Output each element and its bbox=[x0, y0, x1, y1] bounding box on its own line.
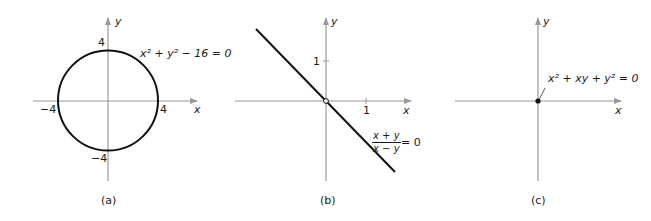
panel-b-graph bbox=[235, 18, 411, 181]
panel-a-caption: (a) bbox=[101, 195, 116, 206]
panel-b-x-label: x bbox=[403, 105, 410, 116]
panel-b-equation-numerator: x + y bbox=[372, 131, 401, 143]
panel-a-equation: x² + y² − 16 = 0 bbox=[140, 48, 231, 59]
panel-a-tick-y-pos: 4 bbox=[98, 37, 105, 48]
panel-c-caption: (c) bbox=[531, 195, 546, 206]
panel-b-tick-x: 1 bbox=[363, 105, 370, 116]
panel-c-y-label: y bbox=[543, 16, 550, 27]
panel-c-equation: x² + xy + y² = 0 bbox=[548, 73, 639, 84]
panel-b-open-point bbox=[324, 99, 329, 104]
figure-canvas bbox=[0, 0, 651, 221]
panel-a-x-label: x bbox=[194, 104, 201, 115]
panel-b-caption: (b) bbox=[320, 195, 336, 206]
panel-b-equation-fraction: x + y x − y bbox=[372, 131, 401, 154]
panel-a-graph bbox=[33, 18, 197, 181]
panel-b-equation-rhs: = 0 bbox=[401, 137, 421, 148]
panel-a-y-label: y bbox=[115, 16, 122, 27]
panel-b-equation-denominator: x − y bbox=[372, 143, 401, 154]
panel-a-tick-y-neg: −4 bbox=[91, 153, 107, 164]
panel-a-tick-x-pos: 4 bbox=[160, 104, 167, 115]
panel-c-graph bbox=[455, 18, 621, 181]
panel-c-leader-line bbox=[539, 88, 545, 100]
panel-b-y-label: y bbox=[331, 16, 338, 27]
panel-c-point bbox=[535, 98, 540, 103]
panel-a-tick-x-neg: −4 bbox=[40, 104, 56, 115]
panel-b-tick-y: 1 bbox=[313, 56, 320, 67]
panel-c-x-label: x bbox=[615, 105, 622, 116]
